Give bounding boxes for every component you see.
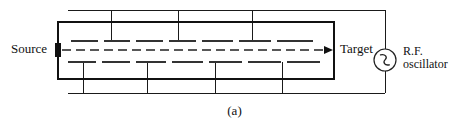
source-label: Source [11,42,47,56]
figure-caption: (a) [0,104,469,118]
source-aperture-icon [55,43,61,57]
figure-linear-accelerator: Source Target R.F. oscillator (a) [0,0,469,129]
upper-electrode-bus [68,10,385,49]
rf-oscillator-label-line1: R.F. [403,45,448,58]
rf-oscillator-symbol [374,49,396,71]
rf-oscillator-label: R.F. oscillator [403,45,448,71]
beam-arrow-icon [62,46,333,54]
beam-arrowhead [324,46,333,54]
rf-oscillator-label-line2: oscillator [403,58,448,71]
target-label: Target [340,42,373,56]
